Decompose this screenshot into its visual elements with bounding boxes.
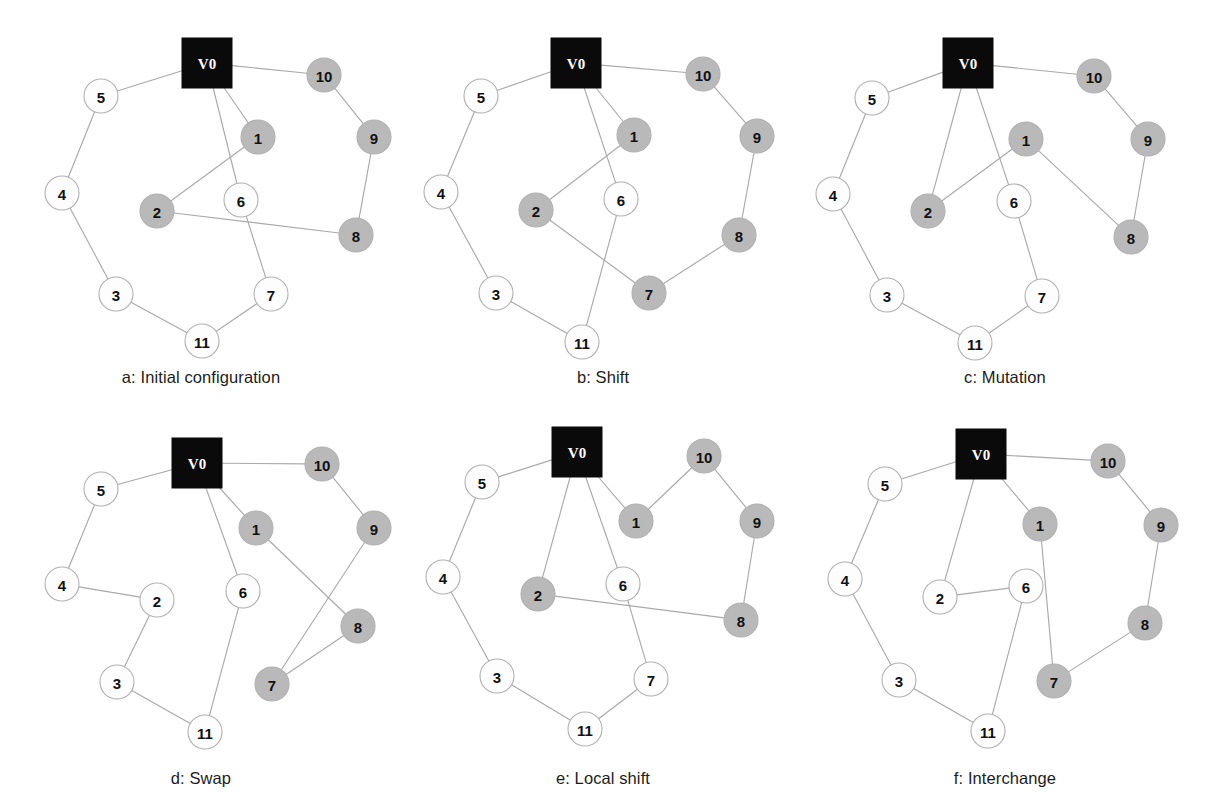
node-layer: V05101942683711 [426, 427, 774, 746]
graph-node-11[interactable]: 11 [958, 326, 992, 360]
graph-panel-b: V05101942683711 [402, 0, 804, 405]
graph-node-4[interactable]: 4 [816, 177, 850, 211]
graph-node-8[interactable]: 8 [1114, 220, 1148, 254]
edge-4-3 [853, 594, 891, 665]
edge-V0-5 [497, 72, 551, 91]
node-label-10: 10 [1086, 69, 1103, 86]
graph-node-3[interactable]: 3 [480, 659, 514, 693]
node-label-3: 3 [113, 675, 121, 692]
edge-3-11 [512, 685, 571, 720]
graph-node-9[interactable]: 9 [1131, 122, 1165, 156]
node-label-6: 6 [1010, 194, 1018, 211]
node-label-4: 4 [841, 572, 850, 589]
node-label-2: 2 [534, 587, 542, 604]
node-label-5: 5 [868, 91, 876, 108]
node-label-4: 4 [439, 570, 448, 587]
graph-node-3[interactable]: 3 [100, 665, 134, 699]
graph-node-9[interactable]: 9 [357, 120, 391, 154]
graph-node-10[interactable]: 10 [1077, 59, 1111, 93]
node-label-9: 9 [370, 130, 378, 147]
node-label-10: 10 [314, 457, 331, 474]
edge-V0-5 [117, 71, 182, 91]
depot-node-V0[interactable]: V0 [943, 38, 993, 88]
graph-node-8[interactable]: 8 [722, 218, 756, 252]
graph-node-2[interactable]: 2 [140, 583, 174, 617]
graph-node-10[interactable]: 10 [305, 447, 339, 481]
graph-node-11[interactable]: 11 [188, 715, 222, 749]
graph-node-11[interactable]: 11 [971, 714, 1005, 748]
graph-node-3[interactable]: 3 [479, 276, 513, 310]
graph-node-6[interactable]: 6 [224, 183, 258, 217]
graph-node-4[interactable]: 4 [426, 560, 460, 594]
node-label-1: 1 [1022, 132, 1030, 149]
graph-node-1[interactable]: 1 [619, 504, 653, 538]
graph-node-5[interactable]: 5 [84, 472, 118, 506]
graph-node-10[interactable]: 10 [687, 439, 721, 473]
graph-node-5[interactable]: 5 [855, 81, 889, 115]
graph-node-7[interactable]: 7 [255, 667, 289, 701]
graph-node-6[interactable]: 6 [226, 574, 260, 608]
graph-node-5[interactable]: 5 [464, 79, 498, 113]
graph-node-7[interactable]: 7 [634, 662, 668, 696]
graph-node-10[interactable]: 10 [686, 57, 720, 91]
graph-node-2[interactable]: 2 [521, 577, 555, 611]
graph-node-7[interactable]: 7 [254, 277, 288, 311]
depot-node-V0[interactable]: V0 [956, 429, 1006, 479]
graph-node-9[interactable]: 9 [740, 119, 774, 153]
graph-node-7[interactable]: 7 [632, 276, 666, 310]
node-label-8: 8 [737, 613, 745, 630]
depot-node-V0[interactable]: V0 [551, 38, 601, 88]
graph-node-5[interactable]: 5 [868, 467, 902, 501]
graph-node-9[interactable]: 9 [357, 511, 391, 545]
graph-node-2[interactable]: 2 [519, 193, 553, 227]
graph-node-4[interactable]: 4 [45, 567, 79, 601]
graph-node-8[interactable]: 8 [724, 603, 758, 637]
graph-node-10[interactable]: 10 [1091, 444, 1125, 478]
graph-node-10[interactable]: 10 [307, 58, 341, 92]
depot-node-V0[interactable]: V0 [552, 427, 602, 477]
node-label-1: 1 [630, 128, 638, 145]
graph-node-3[interactable]: 3 [99, 277, 133, 311]
graph-node-1[interactable]: 1 [1023, 507, 1057, 541]
graph-node-7[interactable]: 7 [1037, 664, 1071, 698]
graph-node-2[interactable]: 2 [140, 194, 174, 228]
graph-node-6[interactable]: 6 [606, 567, 640, 601]
graph-node-11[interactable]: 11 [185, 324, 219, 358]
graph-node-11[interactable]: 11 [565, 325, 599, 359]
edge-3-11 [132, 690, 190, 723]
graph-node-8[interactable]: 8 [339, 218, 373, 252]
depot-node-V0[interactable]: V0 [182, 38, 232, 88]
graph-node-5[interactable]: 5 [84, 79, 118, 113]
edge-V0-2 [543, 477, 571, 578]
graph-node-2[interactable]: 2 [911, 194, 945, 228]
graph-node-1[interactable]: 1 [1009, 122, 1043, 156]
graph-node-6[interactable]: 6 [604, 182, 638, 216]
edge-V0-2 [945, 479, 974, 581]
edge-V0-1 [1002, 479, 1029, 511]
graph-node-6[interactable]: 6 [1009, 569, 1043, 603]
graph-node-4[interactable]: 4 [828, 562, 862, 596]
graph-node-9[interactable]: 9 [740, 504, 774, 538]
graph-node-8[interactable]: 8 [1128, 606, 1162, 640]
node-label-6: 6 [619, 577, 627, 594]
graph-node-3[interactable]: 3 [870, 278, 904, 312]
graph-node-4[interactable]: 4 [45, 176, 79, 210]
graph-node-4[interactable]: 4 [424, 175, 458, 209]
edge-9-10 [714, 87, 746, 123]
depot-label: V0 [972, 447, 990, 463]
graph-node-3[interactable]: 3 [882, 663, 916, 697]
graph-node-2[interactable]: 2 [923, 580, 957, 614]
graph-node-8[interactable]: 8 [341, 609, 375, 643]
graph-node-7[interactable]: 7 [1025, 279, 1059, 313]
graph-node-5[interactable]: 5 [465, 465, 499, 499]
edge-8-9 [742, 153, 754, 219]
graph-node-9[interactable]: 9 [1144, 508, 1178, 542]
edge-V0-5 [888, 72, 943, 92]
graph-node-6[interactable]: 6 [997, 184, 1031, 218]
graph-node-1[interactable]: 1 [241, 120, 275, 154]
graph-node-1[interactable]: 1 [239, 511, 273, 545]
graph-node-11[interactable]: 11 [568, 712, 602, 746]
panel-caption-e: e: Local shift [402, 769, 804, 788]
graph-node-1[interactable]: 1 [617, 118, 651, 152]
depot-node-V0[interactable]: V0 [172, 438, 222, 488]
